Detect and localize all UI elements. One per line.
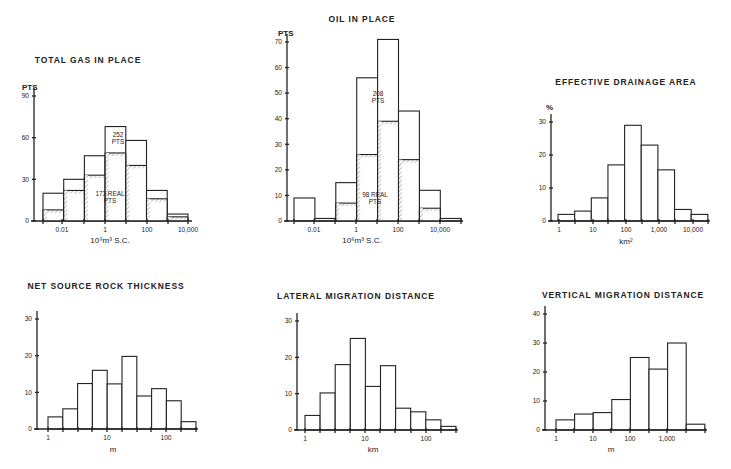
y-tick-label: 20 xyxy=(275,166,283,173)
x-axis-label: km xyxy=(368,445,379,454)
chart-lateral: LATERAL MIGRATION DISTANCE0102030110100k… xyxy=(277,291,458,454)
x-tick-label: 10,000 xyxy=(178,226,199,233)
y-axis-label: PTS xyxy=(22,83,38,92)
x-axis-label: m xyxy=(608,445,615,454)
histogram-bar xyxy=(658,170,675,221)
x-tick-label: 0.01 xyxy=(308,226,321,233)
y-tick-label: 10 xyxy=(285,390,293,397)
y-tick-label: 60 xyxy=(275,64,283,71)
x-tick-label: 1 xyxy=(46,434,50,441)
y-tick-label: 30 xyxy=(22,176,30,183)
x-tick-label: 100 xyxy=(420,435,431,442)
annotation-label: PTS xyxy=(112,138,124,145)
real-bar-hatch xyxy=(106,153,109,221)
histogram-bar xyxy=(591,198,608,221)
chart-drainage: EFFECTIVE DRAINAGE AREA%01020301101001,0… xyxy=(539,77,710,246)
y-tick-label: 20 xyxy=(285,354,293,361)
x-tick-label: 100 xyxy=(392,226,403,233)
real-bar-hatch xyxy=(85,175,88,221)
y-tick-label: 30 xyxy=(533,339,541,346)
real-bar-hatch xyxy=(64,190,67,221)
y-tick-label: 10 xyxy=(275,192,283,199)
chart-title: TOTAL GAS IN PLACE xyxy=(35,55,141,65)
chart-title: NET SOURCE ROCK THICKNESS xyxy=(27,281,184,291)
y-tick-label: 0 xyxy=(28,425,32,432)
y-tick-label: 0 xyxy=(536,426,540,433)
chart-oil: OIL IN PLACEPTS0102030405060700.01110010… xyxy=(275,14,463,245)
histogram-bar xyxy=(305,415,320,430)
histogram-bar xyxy=(122,356,137,429)
x-tick-label: 10 xyxy=(589,226,597,233)
histogram-bar xyxy=(181,422,196,429)
y-tick-label: 90 xyxy=(22,92,30,99)
chart-title: LATERAL MIGRATION DISTANCE xyxy=(277,291,435,301)
annotation-label: 252 xyxy=(113,131,124,138)
histogram-bar xyxy=(686,424,705,430)
x-tick-label: 100 xyxy=(624,435,635,442)
histogram-bar xyxy=(107,384,122,429)
x-tick-label: 1 xyxy=(557,226,561,233)
x-tick-label: 1 xyxy=(354,226,358,233)
x-tick-label: 100 xyxy=(141,226,152,233)
x-tick-label: 10 xyxy=(361,435,369,442)
real-bar-hatch xyxy=(126,165,129,221)
histogram-bar xyxy=(92,370,107,429)
histogram-bar xyxy=(152,389,167,429)
y-tick-label: 10 xyxy=(533,397,541,404)
histogram-bar xyxy=(166,401,181,429)
y-tick-label: 20 xyxy=(539,151,547,158)
annotation-label: PTS xyxy=(369,198,381,205)
x-tick-label: 1 xyxy=(303,435,307,442)
x-axis-label: 10⁶m³ S.C. xyxy=(342,236,381,245)
x-tick-label: 10,000 xyxy=(683,226,704,233)
real-bar-hatch xyxy=(399,160,402,221)
histogram-bar xyxy=(575,414,594,430)
y-tick-label: 40 xyxy=(533,310,541,317)
x-tick-label: 100 xyxy=(620,226,631,233)
histogram-bar xyxy=(675,209,692,221)
histogram-bar xyxy=(668,343,687,430)
y-tick-label: 30 xyxy=(275,141,283,148)
real-bar-hatch xyxy=(336,203,339,221)
y-tick-label: 30 xyxy=(285,317,293,324)
y-tick-label: 10 xyxy=(539,184,547,191)
y-tick-label: 30 xyxy=(25,315,33,322)
histogram-figure: TOTAL GAS IN PLACEPTS03060900.01110010,0… xyxy=(0,0,731,469)
real-bar-hatch xyxy=(44,210,47,221)
histogram-bar xyxy=(630,358,649,431)
histogram-bar xyxy=(137,396,152,429)
histogram-bar xyxy=(396,408,411,430)
y-tick-label: 0 xyxy=(288,426,292,433)
charts-container: TOTAL GAS IN PLACEPTS03060900.01110010,0… xyxy=(22,14,710,454)
y-tick-label: 20 xyxy=(25,352,33,359)
annotation-label: PTS xyxy=(104,197,116,204)
histogram-bar xyxy=(411,412,426,430)
histogram-bar xyxy=(558,214,575,221)
x-axis-label: km² xyxy=(619,237,633,246)
histogram-bar xyxy=(350,338,365,430)
histogram-bar xyxy=(48,417,63,429)
histogram-bar xyxy=(294,198,315,221)
histogram-bar xyxy=(78,384,93,429)
real-bar-hatch xyxy=(378,121,381,221)
y-tick-label: 70 xyxy=(275,38,283,45)
histogram-bar xyxy=(365,386,380,430)
histogram-bar xyxy=(381,366,396,430)
y-tick-label: 30 xyxy=(539,118,547,125)
real-bar-hatch xyxy=(420,208,423,221)
y-tick-label: 20 xyxy=(533,368,541,375)
histogram-bar xyxy=(625,125,642,221)
x-axis-label: 10⁹m³ S.C. xyxy=(90,236,129,245)
histogram-bar xyxy=(608,165,625,221)
histogram-bar xyxy=(556,420,575,430)
x-tick-label: 1,000 xyxy=(659,435,676,442)
x-tick-label: 1,000 xyxy=(651,226,668,233)
x-tick-label: 10 xyxy=(103,434,111,441)
annotation-label: 208 xyxy=(373,90,384,97)
y-axis-label: PTS xyxy=(278,29,294,38)
histogram-bar xyxy=(575,211,592,221)
histogram-bar xyxy=(691,214,708,221)
histogram-bar xyxy=(649,369,668,430)
chart-title: VERTICAL MIGRATION DISTANCE xyxy=(542,290,704,300)
y-tick-label: 40 xyxy=(275,115,283,122)
